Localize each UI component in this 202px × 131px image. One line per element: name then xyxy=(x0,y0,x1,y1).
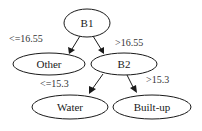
node-label-b2: B2 xyxy=(118,58,131,70)
node-label-b1: B1 xyxy=(81,17,94,29)
arrowhead-icon xyxy=(130,85,137,93)
node-b2: B2 xyxy=(91,53,157,75)
node-label-water: Water xyxy=(57,101,83,113)
node-other: Other xyxy=(13,53,85,75)
edge-b1-b2 xyxy=(93,36,104,54)
edge-label-b1-b2: >16.55 xyxy=(115,37,143,48)
node-builtup: Built-up xyxy=(113,95,191,119)
edge-label-b2-builtup: >15.3 xyxy=(146,74,169,85)
node-label-builtup: Built-up xyxy=(134,101,171,113)
edge-label-b1-other: <=16.55 xyxy=(9,33,43,44)
node-label-other: Other xyxy=(36,58,61,70)
edge-b2-water xyxy=(89,74,103,94)
edge-label-b2-water: <=15.3 xyxy=(40,78,69,89)
edge-b1-other xyxy=(68,36,80,54)
node-water: Water xyxy=(32,95,108,119)
node-b1: B1 xyxy=(64,9,110,37)
decision-tree-diagram: <=16.55 >16.55 <=15.3 >15.3 B1 Other B2 … xyxy=(0,0,202,131)
edge-b2-builtup xyxy=(127,75,137,93)
arrowhead-icon xyxy=(89,86,96,94)
arrowhead-icon xyxy=(68,47,75,54)
